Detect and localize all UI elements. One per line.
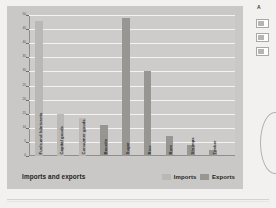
- swatch-fill-icon: [258, 49, 264, 54]
- chart-figure: Percentage of total 05101520253035404550…: [7, 6, 243, 189]
- legend-item-exports[interactable]: Exports: [200, 174, 235, 181]
- side-panel-heading: A: [257, 5, 261, 10]
- y-axis-tick-label: 5: [24, 140, 26, 143]
- legend-swatch-icon: [162, 174, 171, 180]
- y-axis-tick: [26, 114, 29, 115]
- bar-sugar[interactable]: [122, 18, 130, 156]
- y-axis-tick: [26, 57, 29, 58]
- color-swatch-box-2[interactable]: [256, 33, 269, 42]
- legend-label: Imports: [174, 174, 197, 181]
- page-divider: [7, 199, 269, 200]
- chart-footer: Imports and exports ImportsExports: [7, 158, 243, 189]
- bar-rice[interactable]: [144, 71, 152, 156]
- x-axis-category-label: Shrimps: [191, 137, 195, 154]
- plot-area-wrapper: Percentage of total 05101520253035404550…: [29, 15, 235, 156]
- y-axis-tick: [26, 15, 29, 16]
- y-axis-tick-label: 15: [23, 112, 26, 115]
- x-axis-category-label: Rice: [147, 145, 151, 154]
- y-axis-tick-label: 35: [23, 56, 26, 59]
- grid-line: [29, 29, 235, 30]
- side-panel: A: [250, 0, 276, 190]
- y-axis-tick-label: 45: [23, 28, 26, 31]
- plot-area: 05101520253035404550Fuels and lubricants…: [29, 15, 235, 156]
- chart-legend: ImportsExports: [162, 174, 235, 181]
- page-divider-secondary: [7, 201, 269, 202]
- grid-line: [29, 100, 235, 101]
- y-axis-tick-label: 50: [23, 13, 26, 16]
- x-axis-category-label: Capital goods: [60, 126, 64, 154]
- x-axis-category-label: Consumer goods: [82, 119, 86, 154]
- swatch-fill-icon: [258, 35, 264, 40]
- x-axis-category-label: Timber: [213, 140, 217, 154]
- y-axis-tick: [26, 86, 29, 87]
- legend-swatch-icon: [200, 174, 209, 180]
- y-axis-tick: [26, 29, 29, 30]
- y-axis-tick: [26, 100, 29, 101]
- legend-item-imports[interactable]: Imports: [162, 174, 196, 181]
- y-axis-tick-label: 20: [23, 98, 26, 101]
- y-axis-tick: [26, 128, 29, 129]
- y-axis-tick-label: 30: [23, 70, 26, 73]
- x-axis-category-label: Sugar: [125, 142, 129, 154]
- y-axis-tick-label: 10: [23, 126, 26, 129]
- color-swatch-box-1[interactable]: [256, 19, 269, 28]
- chart-title: Imports and exports: [22, 173, 85, 180]
- y-axis-tick: [26, 142, 29, 143]
- page-root: Percentage of total 05101520253035404550…: [0, 0, 276, 208]
- color-swatch-box-3[interactable]: [256, 47, 269, 56]
- grid-line: [29, 57, 235, 58]
- y-axis-tick: [26, 43, 29, 44]
- oval-outline-shape: [260, 112, 276, 174]
- legend-label: Exports: [212, 174, 235, 181]
- grid-line: [29, 43, 235, 44]
- x-axis-category-label: Fuels and lubricants: [38, 112, 42, 154]
- x-axis-category-label: Bauxite: [104, 139, 108, 154]
- y-axis-tick: [26, 71, 29, 72]
- y-axis-tick-label: 40: [23, 42, 26, 45]
- grid-line: [29, 86, 235, 87]
- x-axis-category-label: Rum: [169, 145, 173, 154]
- y-axis-tick-label: 25: [23, 84, 26, 87]
- grid-line: [29, 15, 235, 16]
- grid-line: [29, 71, 235, 72]
- y-axis-tick: [26, 156, 29, 157]
- swatch-fill-icon: [258, 21, 264, 26]
